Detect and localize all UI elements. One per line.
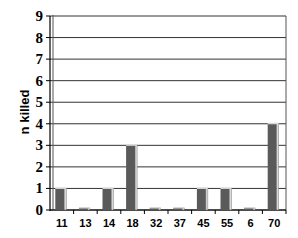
x-tick-label: 70: [268, 217, 280, 229]
y-tick-label: 2: [36, 159, 44, 175]
bar-top: [55, 187, 66, 189]
bar-top: [79, 207, 90, 209]
bar-side: [206, 188, 208, 210]
x-tick-label: 6: [248, 217, 254, 229]
y-axis-label: n killed: [17, 90, 32, 135]
bar-top: [244, 207, 255, 209]
y-tick-label: 4: [36, 116, 44, 132]
y-tick-label: 5: [36, 94, 44, 110]
x-tick-label: 13: [79, 217, 91, 229]
bar: [126, 145, 135, 210]
bar: [197, 188, 206, 210]
y-tick-label: 9: [36, 8, 44, 24]
bar-top: [103, 187, 114, 189]
x-tick-label: 37: [174, 217, 186, 229]
bar: [103, 188, 112, 210]
bar-top: [150, 207, 161, 209]
x-tick-label: 55: [221, 217, 233, 229]
x-tick-label: 32: [150, 217, 162, 229]
bar-top: [268, 123, 279, 125]
y-tick-label: 6: [36, 73, 44, 89]
bar-side: [112, 188, 114, 210]
x-tick-label: 11: [56, 217, 68, 229]
bar-side: [64, 188, 66, 210]
bar-chart: 01234567891113141832374555670 n killed: [0, 0, 298, 238]
bar-top: [197, 187, 208, 189]
bar: [221, 188, 230, 210]
bar: [55, 188, 64, 210]
x-tick-label: 45: [197, 217, 209, 229]
bar-side: [277, 124, 279, 210]
y-tick-label: 8: [36, 30, 44, 46]
chart-canvas: 01234567891113141832374555670: [0, 0, 298, 238]
bar: [268, 124, 277, 210]
bar-top: [221, 187, 232, 189]
y-tick-label: 3: [36, 137, 44, 153]
bar-top: [126, 144, 137, 146]
bar-side: [230, 188, 232, 210]
x-tick-label: 18: [126, 217, 138, 229]
y-tick-label: 7: [36, 51, 44, 67]
y-tick-label: 1: [36, 180, 44, 196]
bar-top: [173, 207, 184, 209]
x-tick-label: 14: [103, 217, 116, 229]
bar-side: [135, 145, 137, 210]
y-tick-label: 0: [36, 202, 44, 218]
